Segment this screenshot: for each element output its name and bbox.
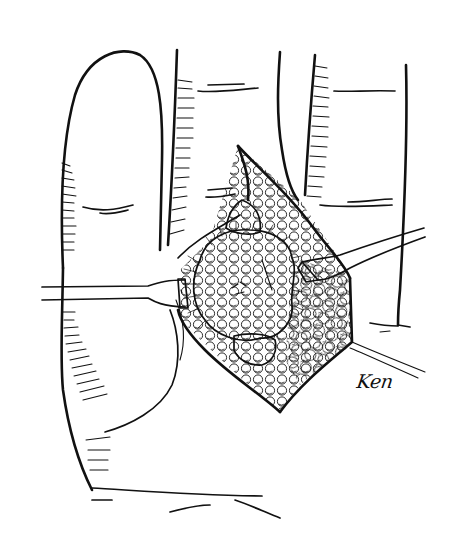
- left-finger: [61, 51, 183, 490]
- medical-illustration: [0, 0, 460, 553]
- artist-signature: Ken: [355, 370, 394, 392]
- right-finger-hatching: [307, 66, 329, 197]
- palm-lines: [92, 488, 280, 518]
